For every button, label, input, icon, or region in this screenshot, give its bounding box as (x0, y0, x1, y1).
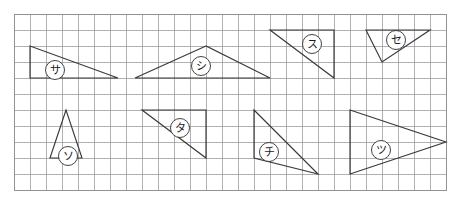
label-text-tsu: ツ (376, 144, 387, 157)
shape-label-chi: チ (260, 143, 279, 162)
worksheet-canvas: サシスセソタチツ (0, 0, 467, 205)
shape-label-sa: サ (46, 61, 65, 80)
label-text-su: ス (307, 38, 318, 51)
label-text-se: セ (391, 34, 402, 47)
labels-layer: サシスセソタチツ (46, 31, 406, 166)
shape-label-se: セ (387, 31, 406, 50)
label-text-sa: サ (50, 64, 61, 77)
grid-figure-svg: サシスセソタチツ (0, 0, 467, 205)
shape-label-so: ソ (59, 147, 78, 166)
label-text-shi: シ (196, 60, 207, 73)
shape-label-su: ス (303, 35, 322, 54)
shape-label-shi: シ (192, 57, 211, 76)
label-text-so: ソ (63, 150, 74, 163)
label-text-chi: チ (264, 146, 275, 159)
shape-label-ta: タ (171, 119, 190, 138)
label-text-ta: タ (175, 122, 186, 135)
shape-label-tsu: ツ (372, 141, 391, 160)
